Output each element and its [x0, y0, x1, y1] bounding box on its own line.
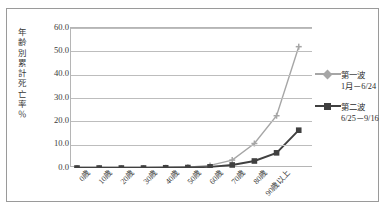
legend-label-series2: 第二波	[341, 100, 365, 112]
y-axis-tick-label: 0.0	[25, 162, 69, 172]
x-axis-tick-label: 60歳	[206, 167, 225, 186]
gridline	[71, 121, 312, 122]
x-axis-tick-label: 20歳	[117, 167, 136, 186]
gridline	[71, 98, 312, 99]
legend-sublabel-series1: 1月－6/24	[341, 80, 390, 93]
legend-symbol-series2	[315, 100, 341, 111]
x-axis-tick-label: 40歳	[162, 167, 181, 186]
y-axis-tick-label: 40.0	[25, 68, 69, 78]
x-axis-tick-label: 10歳	[95, 167, 114, 186]
gridline	[71, 75, 312, 76]
chart-frame: 年齢別累計死亡率％ 60.050.040.030.020.010.00.0 0歳…	[6, 8, 379, 202]
x-axis-tick-label: 50歳	[184, 167, 203, 186]
x-axis-tick-label: 70歳	[228, 167, 247, 186]
y-axis-tick-label: 50.0	[25, 45, 69, 55]
y-axis-tick-label: 30.0	[25, 92, 69, 102]
y-axis-tick-label: 10.0	[25, 138, 69, 148]
gridline	[71, 51, 312, 52]
data-point-marker	[274, 150, 280, 156]
x-axis-tick-label: 80歳	[250, 167, 269, 186]
legend-label-series1: 第一波	[341, 68, 365, 80]
y-axis-tick-label: 60.0	[25, 22, 69, 32]
data-point-marker	[296, 127, 302, 133]
legend-sublabel-series2: 6/25－9/16	[341, 112, 390, 125]
data-point-marker	[296, 44, 302, 50]
chart-legend: 第一波 1月－6/24 第二波 6/25－9/16	[315, 67, 390, 125]
x-axis-tick-label: 30歳	[140, 167, 159, 186]
series-line-2	[77, 130, 299, 168]
y-axis-tick-labels: 60.050.040.030.020.010.00.0	[23, 9, 69, 203]
y-axis-tick-label: 20.0	[25, 115, 69, 125]
legend-symbol-series1	[315, 68, 341, 79]
series-line-1	[77, 47, 299, 168]
plot-area	[70, 27, 312, 167]
x-axis-tick-labels: 0歳10歳20歳30歳40歳50歳60歳70歳80歳90歳以上	[70, 167, 320, 212]
data-point-marker	[252, 158, 258, 164]
gridline	[71, 28, 312, 29]
legend-item-series1: 第一波	[315, 67, 390, 80]
x-axis-tick-label: 0歳	[76, 167, 92, 183]
gridline	[71, 145, 312, 146]
legend-item-series2: 第二波	[315, 99, 390, 112]
